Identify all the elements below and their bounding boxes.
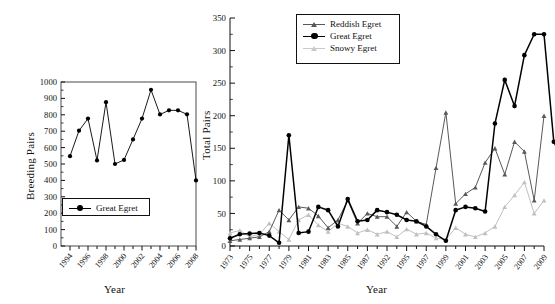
right-x-tick-label: 2009 bbox=[532, 253, 549, 271]
right-data-point bbox=[355, 219, 360, 224]
right-data-point bbox=[365, 228, 370, 232]
right-data-point bbox=[463, 205, 468, 210]
legend-marker-circle-icon bbox=[303, 31, 325, 41]
left-data-point bbox=[86, 116, 90, 120]
left-data-point bbox=[167, 108, 171, 112]
right-data-point bbox=[434, 166, 439, 170]
legend-label: Reddish Egret bbox=[330, 19, 381, 29]
right-data-point bbox=[404, 218, 409, 223]
left-data-point bbox=[149, 88, 153, 92]
figure-container: Breeding Pairs Year 01002003004005006007… bbox=[0, 0, 555, 304]
left-y-tick-label: 200 bbox=[44, 208, 57, 218]
right-data-point bbox=[306, 229, 311, 234]
right-data-point bbox=[375, 208, 380, 213]
left-y-tick-label: 1000 bbox=[40, 77, 57, 87]
right-y-tick-label: 250 bbox=[213, 78, 227, 88]
left-y-tick-label: 800 bbox=[44, 110, 57, 120]
right-x-tick-label: 1973 bbox=[218, 253, 235, 271]
left-data-point bbox=[68, 154, 72, 158]
right-x-tick-label: 1987 bbox=[355, 253, 372, 271]
legend-label: Great Egret bbox=[330, 31, 372, 41]
right-data-point bbox=[512, 104, 517, 109]
right-data-point bbox=[502, 78, 507, 83]
right-x-axis-title: Year bbox=[366, 283, 387, 295]
legend-item-snowy-egret: Snowy Egret bbox=[303, 42, 393, 54]
right-x-tick-label: 2001 bbox=[453, 253, 470, 271]
right-data-point bbox=[443, 110, 448, 114]
right-data-point bbox=[267, 233, 272, 238]
right-data-point bbox=[238, 232, 243, 237]
right-data-point bbox=[404, 210, 409, 214]
right-data-point bbox=[296, 231, 301, 236]
right-x-tick-label: 1979 bbox=[277, 253, 294, 271]
right-data-point bbox=[522, 53, 527, 58]
right-data-point bbox=[483, 160, 488, 164]
right-data-point bbox=[345, 224, 350, 228]
right-data-point bbox=[326, 208, 331, 213]
right-data-point bbox=[542, 114, 547, 118]
right-y-tick-label: 350 bbox=[213, 13, 227, 23]
right-data-point bbox=[287, 133, 292, 138]
right-data-point bbox=[267, 221, 272, 225]
right-data-point bbox=[414, 219, 419, 224]
right-data-point bbox=[532, 32, 537, 37]
left-chart-panel: Breeding Pairs Year 01002003004005006007… bbox=[0, 0, 215, 304]
left-x-tick-label: 1994 bbox=[57, 252, 74, 270]
left-data-point bbox=[113, 162, 117, 166]
right-y-tick-label: 0 bbox=[222, 241, 227, 251]
right-data-point bbox=[385, 210, 390, 215]
left-series-line bbox=[70, 90, 196, 181]
right-data-point bbox=[522, 180, 527, 184]
right-data-point bbox=[257, 231, 262, 236]
right-data-point bbox=[493, 224, 498, 228]
left-plot-frame bbox=[61, 82, 196, 246]
right-y-tick-label: 100 bbox=[213, 176, 227, 186]
left-y-tick-label: 600 bbox=[44, 143, 57, 153]
left-x-tick-label: 2004 bbox=[147, 252, 164, 270]
right-chart-panel: Total Pairs Year 05010015020025030035019… bbox=[186, 0, 555, 304]
right-data-point bbox=[395, 212, 400, 217]
right-x-tick-label: 1985 bbox=[336, 253, 353, 271]
right-data-point bbox=[228, 236, 233, 241]
right-data-point bbox=[473, 206, 478, 211]
right-data-point bbox=[542, 32, 547, 37]
right-data-point bbox=[444, 238, 449, 243]
left-y-tick-label: 400 bbox=[44, 175, 57, 185]
left-data-point bbox=[176, 108, 180, 112]
right-data-point bbox=[552, 139, 555, 144]
left-x-axis-title: Year bbox=[104, 283, 125, 295]
legend-item-great-egret: Great Egret bbox=[303, 30, 393, 42]
right-x-tick-label: 1995 bbox=[395, 253, 412, 271]
left-x-tick-label: 2006 bbox=[165, 252, 182, 270]
right-y-tick-label: 200 bbox=[213, 111, 227, 121]
right-data-point bbox=[365, 211, 370, 215]
legend-label: Great Egret bbox=[96, 203, 138, 213]
right-data-point bbox=[316, 205, 321, 210]
right-x-tick-label: 2007 bbox=[512, 253, 529, 271]
left-data-point bbox=[122, 158, 126, 162]
right-data-point bbox=[532, 198, 537, 202]
right-data-point bbox=[453, 226, 458, 230]
left-y-tick-label: 900 bbox=[44, 93, 57, 103]
legend-item-great-egret: Great Egret bbox=[69, 202, 143, 214]
right-data-point bbox=[483, 209, 488, 214]
right-x-tick-label: 1981 bbox=[296, 253, 313, 271]
right-x-tick-label: 1975 bbox=[238, 253, 255, 271]
left-data-point bbox=[104, 100, 108, 104]
legend-item-reddish-egret: Reddish Egret bbox=[303, 18, 393, 30]
right-data-point bbox=[247, 231, 252, 236]
right-data-point bbox=[345, 197, 350, 202]
right-data-point bbox=[424, 224, 429, 229]
left-y-tick-label: 100 bbox=[44, 225, 57, 235]
right-data-point bbox=[453, 208, 458, 213]
left-data-point bbox=[77, 129, 81, 133]
right-data-point bbox=[404, 227, 409, 231]
left-y-axis-title: Breeding Pairs bbox=[24, 132, 36, 200]
legend-marker-triangle-icon bbox=[303, 19, 325, 29]
left-x-tick-label: 1998 bbox=[93, 252, 110, 270]
right-data-point bbox=[306, 213, 311, 217]
legend-marker-triangle-icon bbox=[303, 43, 325, 53]
right-data-point bbox=[336, 224, 341, 229]
left-y-tick-label: 500 bbox=[44, 159, 57, 169]
right-data-point bbox=[502, 172, 507, 176]
